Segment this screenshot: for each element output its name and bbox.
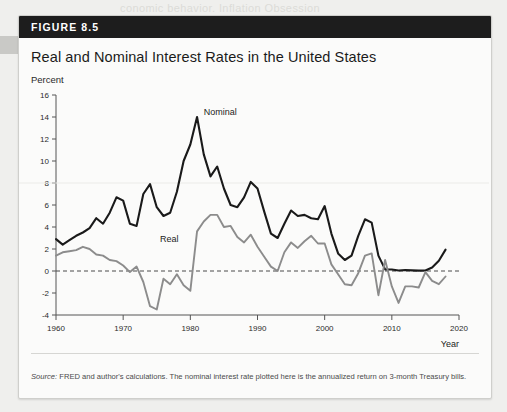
series-annotation-nominal: Nominal xyxy=(204,107,237,117)
y-tick-label: 0 xyxy=(45,267,50,276)
source-text: FRED and author's calculations. The nomi… xyxy=(57,372,466,381)
series-line-nominal xyxy=(56,117,446,271)
y-axis-title: Percent xyxy=(19,65,491,85)
interest-rates-line-chart: -4-2024681012141619601970198019902000201… xyxy=(19,87,489,349)
y-tick-label: 12 xyxy=(40,135,49,144)
plot-area: -4-2024681012141619601970198019902000201… xyxy=(19,87,491,349)
y-tick-label: 2 xyxy=(45,245,50,254)
x-tick-label: 1960 xyxy=(47,324,65,333)
y-tick-label: -4 xyxy=(42,311,50,320)
bleed-text-top: conomic behavior. Inflation Obsession xyxy=(120,2,320,14)
source-note: Source: FRED and author's calculations. … xyxy=(31,371,477,382)
page-background: conomic behavior. Inflation Obsession ex… xyxy=(0,0,507,412)
y-tick-label: 4 xyxy=(45,223,50,232)
series-line-real xyxy=(56,215,446,310)
y-tick-label: 6 xyxy=(45,201,50,210)
source-divider xyxy=(31,353,479,354)
figure-badge-label: FIGURE 8.5 xyxy=(31,21,99,33)
source-label: Source: xyxy=(31,372,57,381)
series-annotation-real: Real xyxy=(160,234,179,244)
x-tick-label: 1980 xyxy=(181,324,199,333)
x-axis-title: Year xyxy=(441,339,459,349)
y-tick-label: 14 xyxy=(40,113,49,122)
x-tick-label: 2010 xyxy=(383,324,401,333)
y-tick-label: 16 xyxy=(40,91,49,100)
y-tick-label: 10 xyxy=(40,157,49,166)
figure-title: Real and Nominal Interest Rates in the U… xyxy=(19,38,491,65)
x-tick-label: 1990 xyxy=(249,324,267,333)
x-tick-label: 1970 xyxy=(114,324,132,333)
figure-badge: FIGURE 8.5 xyxy=(19,16,491,38)
x-tick-label: 2020 xyxy=(450,324,468,333)
figure-panel: FIGURE 8.5 Real and Nominal Interest Rat… xyxy=(18,15,492,399)
x-tick-label: 2000 xyxy=(316,324,334,333)
y-tick-label: -2 xyxy=(42,289,50,298)
